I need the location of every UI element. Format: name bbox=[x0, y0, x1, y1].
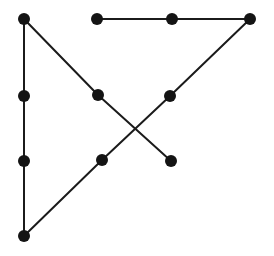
graph-node[interactable] bbox=[166, 13, 178, 25]
graph-node[interactable] bbox=[18, 230, 30, 242]
graph-node[interactable] bbox=[164, 90, 176, 102]
graph-node[interactable] bbox=[165, 155, 177, 167]
graph-node[interactable] bbox=[18, 155, 30, 167]
graph-node[interactable] bbox=[18, 90, 30, 102]
graph-svg bbox=[0, 0, 274, 256]
graph-node[interactable] bbox=[244, 13, 256, 25]
figure-canvas bbox=[0, 0, 274, 256]
graph-node[interactable] bbox=[91, 13, 103, 25]
graph-node[interactable] bbox=[92, 89, 104, 101]
graph-node[interactable] bbox=[18, 13, 30, 25]
graph-node[interactable] bbox=[96, 154, 108, 166]
